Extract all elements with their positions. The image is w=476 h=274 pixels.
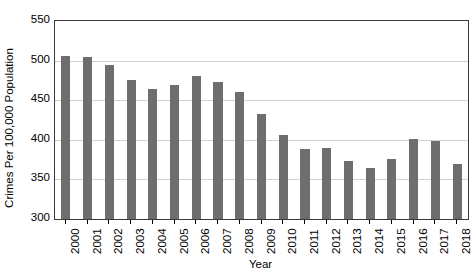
x-axis-tick-mark	[195, 220, 196, 224]
x-axis-tick-label: 2006	[200, 228, 211, 254]
y-axis-tick-labels: 300350400450500550	[16, 0, 50, 274]
y-axis-tick-label: 300	[20, 212, 50, 223]
x-axis-tick-label: 2014	[374, 228, 385, 254]
x-axis-tick-label: 2007	[222, 228, 233, 254]
x-axis-tick-label: 2011	[309, 229, 320, 254]
x-axis-tick-mark	[174, 220, 175, 224]
x-axis-tick-label: 2018	[461, 228, 472, 254]
bar	[409, 139, 418, 219]
x-axis-tick-mark	[152, 220, 153, 224]
x-axis-tick-mark	[413, 220, 414, 224]
bar	[257, 114, 266, 219]
bar	[344, 161, 353, 219]
x-axis-tick-mark	[239, 220, 240, 224]
x-axis-tick-mark	[130, 220, 131, 224]
x-axis-tick-mark	[261, 220, 262, 224]
x-axis-tick-label: 2000	[70, 228, 81, 254]
x-axis-tick-label: 2001	[92, 228, 103, 254]
bar	[192, 76, 201, 219]
x-axis-tick-mark	[304, 220, 305, 224]
x-axis-tick-label: 2005	[179, 228, 190, 254]
bar	[322, 148, 331, 219]
x-axis-tick-label: 2003	[135, 228, 146, 254]
x-axis-tick-mark	[87, 220, 88, 224]
bar	[235, 92, 244, 219]
x-axis-tick-mark	[65, 220, 66, 224]
bar	[279, 135, 288, 219]
bar	[61, 56, 70, 219]
x-axis-tick-label: 2009	[266, 228, 277, 254]
x-axis-tick-mark	[326, 220, 327, 224]
bar-chart: Crimes Per 100,000 Population 3003504004…	[0, 0, 476, 274]
bar	[213, 82, 222, 219]
y-axis-tick-label: 500	[20, 54, 50, 65]
bar-series	[55, 21, 468, 219]
bar	[453, 164, 462, 219]
x-axis-tick-label: 2013	[352, 228, 363, 254]
x-axis-tick-mark	[369, 220, 370, 224]
x-axis-tick-label: 2017	[439, 228, 450, 254]
y-axis-title: Crimes Per 100,000 Population	[1, 18, 17, 238]
x-axis-tick-label: 2012	[331, 228, 342, 254]
plot-area	[54, 20, 469, 220]
bar	[300, 149, 309, 219]
x-axis-tick-label: 2004	[157, 228, 168, 254]
x-axis-tick-mark	[282, 220, 283, 224]
x-axis-tick-mark	[108, 220, 109, 224]
bar	[105, 65, 114, 219]
bar	[148, 89, 157, 219]
y-axis-tick-label: 400	[20, 133, 50, 144]
bar	[431, 141, 440, 219]
y-axis-tick-label: 550	[20, 14, 50, 25]
bar	[83, 57, 92, 219]
x-axis-tick-mark	[347, 220, 348, 224]
x-axis-tick-label: 2002	[113, 228, 124, 254]
y-axis-tick-label: 350	[20, 172, 50, 183]
x-axis-tick-label: 2015	[396, 228, 407, 254]
x-axis-tick-label: 2010	[287, 228, 298, 254]
bar	[170, 85, 179, 219]
y-axis-tick-label: 450	[20, 93, 50, 104]
x-axis-tick-mark	[434, 220, 435, 224]
bar	[366, 168, 375, 219]
bar	[387, 159, 396, 219]
x-axis-tick-mark	[391, 220, 392, 224]
x-axis-tick-label: 2008	[244, 228, 255, 254]
bar	[127, 80, 136, 219]
x-axis-tick-mark	[217, 220, 218, 224]
x-axis-tick-mark	[456, 220, 457, 224]
x-axis-title: Year	[54, 258, 467, 270]
x-axis-tick-label: 2016	[418, 228, 429, 254]
